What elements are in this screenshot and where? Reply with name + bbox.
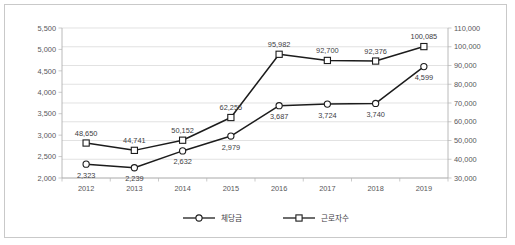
y-axis-left-tick-label: 5,000: [38, 45, 57, 54]
x-axis-category-label: 2013: [126, 184, 142, 193]
legend-label: 근로자수: [321, 214, 349, 223]
legend-label: 체당금: [221, 213, 242, 223]
data-value-label: 48,650: [75, 129, 98, 138]
y-axis-right-tick-label: 110,000: [454, 24, 480, 33]
data-point-marker-square: [373, 58, 379, 64]
y-axis-right-tick-label: 100,000: [454, 42, 481, 51]
legend-marker-circle: [196, 215, 202, 221]
data-value-label: 3,740: [366, 110, 385, 119]
plot-series: [83, 43, 427, 170]
data-point-marker-circle: [324, 101, 330, 107]
data-point-marker-circle: [276, 103, 282, 109]
y-axis-right-labels: 30,00040,00050,00060,00070,00080,00090,0…: [448, 24, 481, 183]
data-value-labels: 2,3232,2392,6322,9793,6873,7243,7404,599…: [75, 32, 437, 183]
x-axis-category-label: 2015: [223, 184, 239, 193]
x-axis-category-label: 2016: [271, 184, 287, 193]
y-axis-left-labels: 2,0002,5003,0003,5004,0004,5005,0005,500: [38, 24, 63, 183]
data-value-label: 2,239: [125, 174, 144, 183]
data-value-label: 2,323: [77, 171, 96, 180]
data-point-marker-circle: [421, 64, 427, 70]
y-axis-right-tick-label: 50,000: [454, 136, 477, 145]
data-point-marker-square: [131, 147, 137, 153]
data-value-label: 62,255: [220, 103, 243, 112]
x-axis-category-label: 2012: [78, 184, 94, 193]
y-axis-left-tick-label: 4,000: [38, 88, 57, 97]
y-axis-right-tick-label: 40,000: [454, 155, 477, 164]
data-point-marker-square: [324, 57, 330, 63]
axis-lines: [62, 28, 448, 182]
data-point-marker-circle: [228, 133, 234, 139]
y-axis-left-tick-label: 3,000: [38, 131, 57, 140]
data-point-marker-circle: [83, 161, 89, 167]
data-value-label: 92,376: [364, 47, 387, 56]
y-axis-left-tick-label: 2,000: [38, 174, 57, 183]
x-axis-category-label: 2019: [416, 184, 432, 193]
dual-axis-line-chart: 2,0002,5003,0003,5004,0004,5005,0005,500…: [0, 0, 515, 245]
y-axis-right-tick-label: 30,000: [454, 174, 477, 183]
y-axis-left-tick-label: 2,500: [38, 152, 57, 161]
y-axis-left-tick-label: 3,500: [38, 109, 57, 118]
data-point-marker-square: [180, 137, 186, 143]
data-value-label: 44,741: [123, 136, 146, 145]
data-point-marker-circle: [373, 100, 379, 106]
x-axis-category-labels: 20122013201420152016201720182019: [78, 184, 432, 193]
data-point-marker-square: [228, 114, 234, 120]
data-point-marker-circle: [131, 165, 137, 171]
data-point-marker-square: [421, 43, 427, 49]
data-value-label: 3,724: [318, 111, 337, 120]
y-axis-right-tick-label: 90,000: [454, 61, 477, 70]
y-axis-left-tick-label: 5,500: [38, 24, 57, 33]
x-axis-category-label: 2014: [174, 184, 190, 193]
y-axis-right-tick-label: 80,000: [454, 80, 477, 89]
x-axis-category-label: 2017: [319, 184, 335, 193]
data-value-label: 95,982: [268, 40, 291, 49]
data-value-label: 50,152: [171, 126, 194, 135]
data-value-label: 92,700: [316, 46, 339, 55]
x-axis-category-label: 2018: [367, 184, 383, 193]
gridlines: [62, 28, 448, 178]
y-axis-right-tick-label: 60,000: [454, 117, 477, 126]
chart-legend[interactable]: 체당금근로자수: [183, 213, 349, 223]
y-axis-left-tick-label: 4,500: [38, 67, 57, 76]
data-point-marker-square: [83, 140, 89, 146]
data-point-marker-circle: [180, 148, 186, 154]
data-value-label: 4,599: [415, 73, 434, 82]
y-axis-right-tick-label: 70,000: [454, 99, 477, 108]
legend-marker-square: [296, 215, 302, 221]
data-value-label: 100,085: [411, 32, 438, 41]
data-value-label: 3,687: [270, 112, 289, 121]
data-value-label: 2,979: [222, 143, 241, 152]
data-point-marker-square: [276, 51, 282, 57]
data-value-label: 2,632: [173, 157, 192, 166]
